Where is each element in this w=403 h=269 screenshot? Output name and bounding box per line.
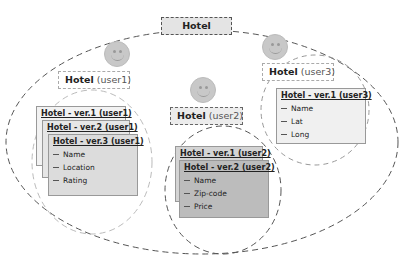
user1-version-3-card: Hotel - ver.3 (user1) Name Location Rati… [48, 134, 138, 196]
root-hotel-label: Hotel [161, 17, 232, 35]
field-row: Lat [277, 115, 365, 128]
field-row: Long [277, 128, 365, 141]
field-row: Name [277, 102, 365, 115]
user1-avatar-icon [104, 41, 130, 67]
user1-hotel-label: Hotel (user1) [58, 71, 130, 89]
user3-version-1-card: Hotel - ver.1 (user3) Name Lat Long [276, 88, 366, 144]
field-row: Rating [49, 174, 137, 187]
user3-avatar-icon [262, 34, 288, 60]
user3-hotel-label: Hotel (user3) [262, 63, 334, 81]
field-row: Zip-code [180, 187, 268, 200]
user2-hotel-label: Hotel (user2) [170, 107, 243, 125]
field-row: Name [180, 174, 268, 187]
user2-version-2-card: Hotel - ver.2 (user2) Name Zip-code Pric… [179, 160, 269, 218]
field-row: Price [180, 200, 268, 213]
field-row: Location [49, 161, 137, 174]
field-row: Name [49, 148, 137, 161]
user2-avatar-icon [190, 77, 216, 103]
